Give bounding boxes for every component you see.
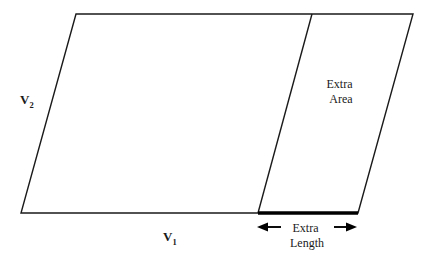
extra-length-line-1: Extra: [293, 221, 320, 235]
extra-length-line-2: Length: [290, 236, 324, 250]
extra-area-label: Extra Area: [327, 77, 356, 106]
diagram-canvas: V2 V1 Extra Area Extra Length: [0, 0, 425, 258]
extra-area-line-2: Area: [329, 92, 353, 106]
figure-background: [0, 0, 425, 258]
extra-length-label: Extra Length: [290, 221, 324, 250]
vector-1-subscript: 1: [172, 237, 176, 247]
vector-2-subscript: 2: [29, 100, 33, 110]
extra-area-line-1: Extra: [327, 77, 354, 91]
vector-parallelogram-figure: V2 V1 Extra Area Extra Length: [0, 0, 425, 258]
